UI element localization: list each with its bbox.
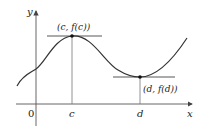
d-tick-label: d [137,108,143,119]
x-axis-label: x [187,108,193,119]
y-axis-label: y [26,6,33,17]
min-point-label: (d, f(d)) [143,84,178,94]
function-curve [17,36,187,86]
max-point-label: (c, f(c)) [57,22,91,32]
function-diagram: y x 0 c d (c, f(c)) (d, f(d)) [0,0,203,136]
min-point [138,75,142,79]
max-point [70,34,74,38]
c-tick-label: c [69,108,75,119]
origin-label: 0 [28,108,34,119]
